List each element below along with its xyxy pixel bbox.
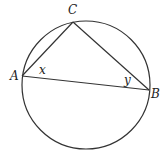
segment-ac [22,22,73,76]
circle-triangle-diagram: C A B x y [0,0,167,160]
point-label-c: C [68,3,77,17]
point-label-b: B [150,87,160,101]
point-label-a: A [9,69,19,83]
angle-label-x: x [39,63,46,77]
angle-label-y: y [123,73,131,87]
segment-cb [73,22,149,90]
circle [22,21,150,149]
